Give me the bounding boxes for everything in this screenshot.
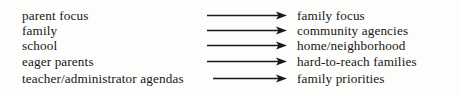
source-label: teacher/administrator agendas (22, 71, 184, 86)
diagram-row: teacher/administrator agendas family pri… (0, 71, 460, 86)
target-label: community agencies (297, 23, 408, 38)
source-label: family (22, 23, 57, 38)
rightwards-arrow-icon (213, 71, 287, 86)
target-label: family priorities (297, 71, 385, 86)
diagram-row: family community agencies (0, 23, 460, 38)
target-label: hard-to-reach families (297, 54, 417, 69)
source-label: eager parents (22, 54, 94, 69)
source-label: school (22, 38, 57, 53)
diagram-row: parent focus family focus (0, 8, 460, 23)
rightwards-arrow-icon (207, 54, 287, 69)
diagram-row: eager parents hard-to-reach families (0, 54, 460, 69)
target-label: home/neighborhood (297, 38, 405, 53)
rightwards-arrow-icon (207, 38, 287, 53)
diagram-row: school home/neighborhood (0, 38, 460, 53)
mapping-diagram: parent focus family focus family communi… (0, 0, 460, 95)
source-label: parent focus (22, 8, 88, 23)
target-label: family focus (297, 8, 365, 23)
rightwards-arrow-icon (207, 23, 287, 38)
rightwards-arrow-icon (207, 8, 287, 23)
